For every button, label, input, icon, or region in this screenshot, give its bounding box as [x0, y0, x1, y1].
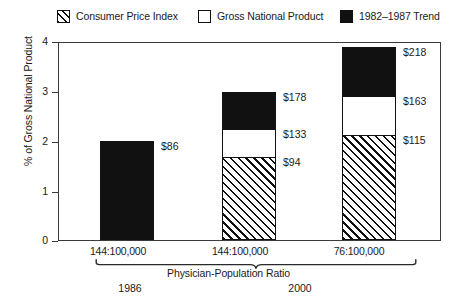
bar-segment-gnp: $133: [222, 129, 276, 157]
year-label-2000: 2000: [260, 282, 340, 294]
y-axis-tick-label-1: 1: [42, 185, 48, 198]
bar-segment-label-trend: $178: [283, 91, 306, 104]
bar-segment-label-trend: $86: [161, 140, 179, 153]
chart-legend: Consumer Price Index Gross National Prod…: [0, 7, 457, 27]
bar-segment-label-gnp: $163: [403, 95, 426, 108]
bar-segment-gnp: $163: [342, 96, 396, 135]
year-label-1986: 1986: [90, 282, 170, 294]
bar-segment-label-trend: $218: [403, 46, 426, 59]
x-axis-title: Physician-Population Ratio: [0, 267, 457, 279]
y-axis-tick-mark: [52, 241, 58, 242]
bar-segment-cpi: $115: [342, 135, 396, 240]
legend-item-consumer-price-index: Consumer Price Index: [57, 8, 178, 24]
legend-swatch-hatch-icon: [57, 10, 70, 23]
bar-group-2: $178 $133 $94: [222, 92, 276, 240]
x-axis-tick-label-1: 144:100,000: [68, 245, 168, 257]
bar-segment-label-gnp: $133: [283, 128, 306, 141]
legend-item-1982-1987-trend: 1982–1987 Trend: [340, 8, 440, 24]
y-axis-tick-label-3: 3: [42, 85, 48, 98]
y-axis-tick-label-4: 4: [42, 35, 48, 48]
bar-segment-label-cpi: $94: [283, 156, 301, 169]
bar-segment-trend: $86: [100, 141, 154, 240]
bar-segment-label-cpi: $115: [403, 134, 426, 147]
legend-label-gross-national-product: Gross National Product: [217, 10, 323, 23]
legend-label-consumer-price-index: Consumer Price Index: [76, 10, 178, 23]
x-axis-tick-label-3: 76:100,000: [309, 245, 409, 257]
bar-group-1: $86: [100, 141, 154, 240]
bar-segment-cpi: $94: [222, 157, 276, 240]
legend-label-1982-1987-trend: 1982–1987 Trend: [359, 10, 440, 23]
plot-area: $86 $178 $133 $94 $218 $163 $115: [58, 42, 441, 241]
y-axis-tick-0: 0: [40, 241, 58, 242]
y-axis-tick-label-0: 0: [42, 234, 48, 247]
legend-swatch-white-icon: [198, 10, 211, 23]
legend-swatch-black-icon: [340, 10, 353, 23]
bar-segment-trend: $218: [342, 47, 396, 96]
bar-segment-trend: $178: [222, 92, 276, 129]
y-axis-tick-1: 1: [40, 192, 58, 193]
y-axis-tick-3: 3: [40, 92, 58, 93]
legend-item-gross-national-product: Gross National Product: [198, 8, 323, 24]
y-axis-tick-2: 2: [40, 142, 58, 143]
y-axis-title: % of Gross National Product: [22, 11, 34, 191]
x-axis-tick-label-2: 144:100,000: [190, 245, 290, 257]
bar-group-3: $218 $163 $115: [342, 47, 396, 240]
y-axis-tick-4: 4: [40, 42, 58, 43]
y-axis-tick-label-2: 2: [42, 135, 48, 148]
